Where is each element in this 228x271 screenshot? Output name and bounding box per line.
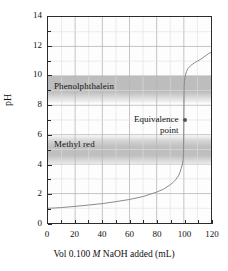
y-tick-label: 6 bbox=[22, 129, 42, 139]
x-tick bbox=[212, 220, 213, 224]
x-tick bbox=[88, 220, 89, 223]
x-axis-title: Vol 0.100 M NaOH added (mL) bbox=[0, 249, 228, 259]
x-axis-title-prefix: Vol 0.100 bbox=[53, 249, 92, 259]
equivalence-point-annotation: Equivalence point bbox=[119, 114, 179, 136]
x-tick bbox=[185, 220, 186, 224]
x-tick bbox=[47, 220, 48, 224]
band-label-phenolphthalein: Phenolphthalein bbox=[54, 81, 114, 91]
y-tick-label: 2 bbox=[22, 188, 42, 198]
x-tick-label: 80 bbox=[145, 229, 169, 239]
y-tick bbox=[48, 209, 51, 210]
x-tick-label: 60 bbox=[118, 229, 142, 239]
x-tick bbox=[75, 220, 76, 224]
y-tick bbox=[48, 224, 52, 225]
x-tick bbox=[143, 220, 144, 223]
x-tick bbox=[171, 220, 172, 223]
titration-curve-figure: Phenolphthalein Methyl red 0246810121402… bbox=[0, 0, 228, 271]
y-tick-label: 12 bbox=[22, 40, 42, 50]
y-tick bbox=[48, 16, 52, 17]
y-tick bbox=[48, 105, 52, 106]
x-tick bbox=[198, 220, 199, 223]
y-tick bbox=[48, 179, 51, 180]
band-label-methyl-red: Methyl red bbox=[54, 139, 95, 149]
x-tick-label: 20 bbox=[63, 229, 87, 239]
y-tick-label: 10 bbox=[22, 69, 42, 79]
y-axis-title: pH bbox=[2, 94, 13, 106]
y-tick bbox=[48, 165, 52, 166]
y-tick bbox=[48, 90, 51, 91]
y-tick bbox=[48, 61, 51, 62]
y-tick-label: 0 bbox=[22, 218, 42, 228]
equivalence-point-marker-dot bbox=[183, 118, 187, 122]
y-tick bbox=[48, 46, 52, 47]
y-tick bbox=[48, 135, 52, 136]
y-tick-label: 4 bbox=[22, 159, 42, 169]
x-tick bbox=[130, 220, 131, 224]
y-tick bbox=[48, 150, 51, 151]
x-tick bbox=[157, 220, 158, 224]
x-axis-title-suffix: NaOH added (mL) bbox=[100, 249, 174, 259]
x-tick bbox=[116, 220, 117, 223]
y-tick bbox=[48, 120, 51, 121]
x-tick-label: 120 bbox=[200, 229, 224, 239]
y-tick bbox=[48, 75, 52, 76]
x-tick-label: 40 bbox=[90, 229, 114, 239]
equivalence-label-line2: point bbox=[119, 125, 179, 136]
y-tick bbox=[48, 31, 51, 32]
y-tick-label: 14 bbox=[22, 10, 42, 20]
equivalence-label-line1: Equivalence bbox=[134, 114, 178, 124]
x-tick bbox=[61, 220, 62, 223]
x-tick bbox=[102, 220, 103, 224]
x-tick-label: 0 bbox=[35, 229, 59, 239]
y-tick bbox=[48, 194, 52, 195]
y-tick-label: 8 bbox=[22, 99, 42, 109]
x-tick-label: 100 bbox=[173, 229, 197, 239]
